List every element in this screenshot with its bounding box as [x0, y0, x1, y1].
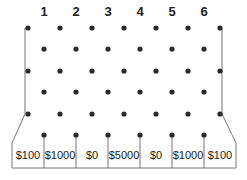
column-label: 6	[200, 4, 207, 19]
peg-dot	[105, 46, 110, 51]
prize-slot-label: $100	[208, 149, 232, 161]
peg-dot	[105, 132, 110, 137]
peg-dot	[137, 46, 142, 51]
peg-dot	[169, 46, 174, 51]
peg-dot	[153, 111, 158, 116]
plinko-board: 123456 $100$1000$0$5000$0$1000$100	[0, 0, 247, 180]
peg-dot	[73, 132, 78, 137]
left-wall	[12, 28, 25, 168]
prize-slots: $100$1000$0$5000$0$1000$100	[16, 149, 232, 161]
peg-dot	[41, 89, 46, 94]
peg-dot	[137, 132, 142, 137]
peg-dot	[137, 89, 142, 94]
peg-dot	[121, 25, 126, 30]
peg-dot	[153, 25, 158, 30]
peg-dot	[25, 25, 30, 30]
peg-dot	[89, 25, 94, 30]
peg-dot	[217, 111, 222, 116]
peg-dot	[73, 46, 78, 51]
right-wall	[222, 28, 236, 168]
peg-dot	[169, 89, 174, 94]
peg-dot	[217, 68, 222, 73]
peg-dot	[169, 132, 174, 137]
column-label: 3	[104, 4, 111, 19]
prize-slot-label: $0	[150, 149, 162, 161]
peg-dot	[57, 111, 62, 116]
peg-dot	[201, 46, 206, 51]
prize-slot-label: $0	[86, 149, 98, 161]
column-label: 4	[136, 4, 144, 19]
prize-slot-label: $100	[16, 149, 40, 161]
pegs	[25, 25, 222, 137]
peg-dot	[25, 68, 30, 73]
prize-slot-label: $1000	[173, 149, 204, 161]
peg-dot	[105, 89, 110, 94]
peg-dot	[121, 68, 126, 73]
peg-dot	[73, 89, 78, 94]
column-label: 1	[40, 4, 47, 19]
peg-dot	[57, 68, 62, 73]
column-label: 2	[72, 4, 79, 19]
peg-dot	[121, 111, 126, 116]
peg-dot	[41, 46, 46, 51]
column-labels: 123456	[40, 4, 207, 19]
peg-dot	[201, 132, 206, 137]
peg-dot	[41, 132, 46, 137]
peg-dot	[185, 25, 190, 30]
peg-dot	[217, 25, 222, 30]
peg-dot	[89, 68, 94, 73]
peg-dot	[185, 111, 190, 116]
peg-dot	[153, 68, 158, 73]
peg-dot	[57, 25, 62, 30]
column-label: 5	[168, 4, 175, 19]
peg-dot	[201, 89, 206, 94]
prize-slot-label: $1000	[45, 149, 76, 161]
peg-dot	[89, 111, 94, 116]
peg-dot	[25, 111, 30, 116]
prize-slot-label: $5000	[109, 149, 140, 161]
peg-dot	[185, 68, 190, 73]
